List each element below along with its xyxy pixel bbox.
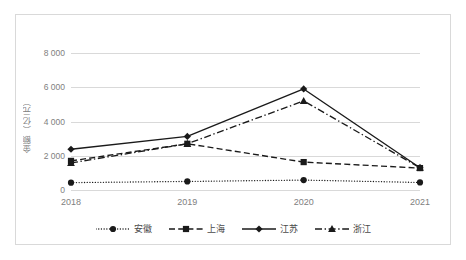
plot-area: 02 0004 0006 0008 000 2018201920202021 <box>71 53 420 190</box>
legend-item-浙江[interactable]: 浙江 <box>315 222 371 235</box>
line-chart: 金额（亿元） 02 0004 0006 0008 000 20182019202… <box>0 0 466 260</box>
legend-label: 安徽 <box>134 222 152 235</box>
legend-item-上海[interactable]: 上海 <box>169 222 225 235</box>
series-安徽 <box>68 177 423 186</box>
series-上海 <box>68 141 423 172</box>
data-point-marker <box>182 225 188 231</box>
legend-key-diamond-icon <box>242 224 276 234</box>
x-axis-tick-label: 2018 <box>61 197 81 207</box>
legend-key-circle-icon <box>96 224 130 234</box>
data-point-marker <box>68 180 74 186</box>
legend-label: 江苏 <box>280 222 298 235</box>
x-axis-tick-label: 2020 <box>294 197 314 207</box>
data-point-marker <box>184 178 190 184</box>
y-axis-tick-label: 6 000 <box>5 82 65 92</box>
data-point-marker <box>301 177 307 183</box>
series-line <box>71 89 420 168</box>
series-line <box>71 144 420 168</box>
data-point-marker <box>184 133 191 140</box>
x-axis-tick-label: 2019 <box>177 197 197 207</box>
series-江苏 <box>67 85 423 171</box>
series-line <box>71 101 420 168</box>
x-axis-tick-label: 2021 <box>410 197 430 207</box>
data-point-marker <box>300 97 308 104</box>
legend-item-江苏[interactable]: 江苏 <box>242 222 298 235</box>
series-layer <box>71 53 420 190</box>
data-point-marker <box>417 179 423 185</box>
y-axis-tick-label: 2 000 <box>5 151 65 161</box>
y-axis-tick-label: 4 000 <box>5 117 65 127</box>
legend-item-安徽[interactable]: 安徽 <box>96 222 152 235</box>
chart-legend: 安徽上海江苏浙江 <box>0 222 466 235</box>
series-line <box>71 180 420 183</box>
y-axis-tick-label: 0 <box>5 185 65 195</box>
y-axis-tick-label: 8 000 <box>5 48 65 58</box>
legend-key-square-icon <box>169 224 203 234</box>
legend-label: 上海 <box>207 222 225 235</box>
legend-label: 浙江 <box>353 222 371 235</box>
data-point-marker <box>301 159 307 165</box>
legend-key-triangle-icon <box>315 224 349 234</box>
data-point-marker <box>255 225 262 232</box>
data-point-marker <box>109 225 115 231</box>
gridline <box>71 190 420 191</box>
